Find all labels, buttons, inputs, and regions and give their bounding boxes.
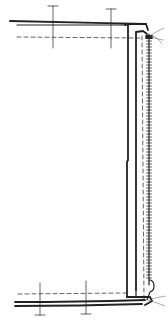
bottom-fabric-layers (15, 290, 152, 306)
zipper-outer-edge (127, 26, 128, 297)
top-stitch-line (17, 37, 140, 38)
bottom-measurement-markers (35, 281, 91, 315)
bottom-stitch-line (18, 293, 126, 294)
diagram-drawing (0, 0, 168, 322)
top-measurement-markers (48, 6, 116, 48)
zipper-tape (136, 31, 147, 290)
zipper-stitch-line (142, 36, 144, 300)
sewing-diagram (0, 0, 168, 322)
zipper-teeth (146, 34, 152, 285)
